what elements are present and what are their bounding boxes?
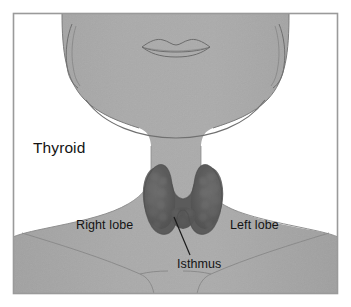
label-right-lobe: Right lobe xyxy=(76,219,133,232)
label-thyroid: Thyroid xyxy=(33,140,85,156)
thyroid-illustration: Thyroid Right lobe Left lobe Isthmus xyxy=(0,0,351,307)
label-left-lobe: Left lobe xyxy=(230,219,279,232)
label-isthmus: Isthmus xyxy=(177,258,221,271)
